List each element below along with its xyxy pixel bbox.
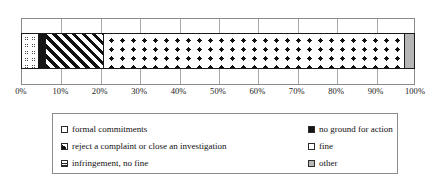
legend-swatch-other-icon <box>308 160 315 167</box>
stacked-bar-chart-figure: 0% 10% 20% 30% 40% 50% 60% 70% 80% 90% 1… <box>0 0 443 186</box>
legend-swatch-no-ground-for-action-icon <box>308 126 315 133</box>
legend-label-infringement-no-fine: infringement, no fine <box>72 159 148 168</box>
legend-swatch-formal-commitments-icon <box>61 126 68 133</box>
x-axis-tick-labels: 0% 10% 20% 30% 40% 50% 60% 70% 80% 90% 1… <box>0 86 443 100</box>
xtick-label-60: 60% <box>249 86 265 96</box>
legend-label-other: other <box>319 159 338 168</box>
legend-item-fine: fine <box>308 138 397 155</box>
legend-item-other: other <box>308 155 397 172</box>
xtick-label-20: 20% <box>92 86 108 96</box>
xtick-label-0: 0% <box>15 86 27 96</box>
xtick-label-50: 50% <box>210 86 226 96</box>
legend-column-right: no ground for action fine other <box>308 121 397 173</box>
legend-item-formal-commitments: formal commitments <box>61 121 308 138</box>
legend-item-no-ground-for-action: no ground for action <box>308 121 397 138</box>
legend-label-formal-commitments: formal commitments <box>72 125 147 134</box>
xtick-label-80: 80% <box>328 86 344 96</box>
legend-swatch-infringement-no-fine-icon <box>61 160 68 167</box>
legend-label-no-ground-for-action: no ground for action <box>319 125 393 134</box>
xtick-label-70: 70% <box>289 86 305 96</box>
legend-column-left: formal commitments reject a complaint or… <box>61 121 308 173</box>
xtick-label-30: 30% <box>131 86 147 96</box>
xtick-label-100: 100% <box>405 86 425 96</box>
xtick-label-40: 40% <box>171 86 187 96</box>
bar-segment-reject-complaint-or-close-an-investigation <box>45 34 103 68</box>
legend-item-reject-complaint: reject a complaint or close an investiga… <box>61 138 308 155</box>
legend: formal commitments reject a complaint or… <box>52 113 398 174</box>
bar-segment-infringement-no-fine <box>103 34 404 68</box>
legend-item-infringement-no-fine: infringement, no fine <box>61 155 308 172</box>
bar-segment-other <box>404 34 414 68</box>
bar-segment-no-ground-for-action <box>38 34 45 68</box>
legend-swatch-reject-complaint-icon <box>61 143 68 150</box>
xtick-label-90: 90% <box>368 86 384 96</box>
legend-label-fine: fine <box>319 142 333 151</box>
legend-label-reject-complaint: reject a complaint or close an investiga… <box>72 142 226 151</box>
legend-swatch-fine-icon <box>308 143 315 150</box>
bar-segment-fine <box>22 34 38 68</box>
stacked-bar <box>21 33 415 69</box>
xtick-label-10: 10% <box>52 86 68 96</box>
